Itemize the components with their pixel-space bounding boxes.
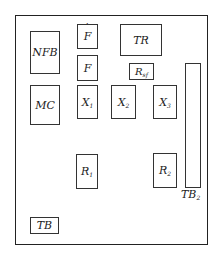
x1-label: X1 — [82, 96, 94, 109]
f-dot-box: F — [77, 24, 98, 49]
nfb-label: NFB — [32, 46, 57, 59]
r2-box: R2 — [153, 153, 177, 188]
x2-box: X2 — [111, 85, 136, 119]
tb-label: TB — [37, 219, 52, 232]
nfb-box: NFB — [30, 31, 60, 74]
x2-label: X2 — [118, 96, 130, 109]
r1-label: R1 — [81, 165, 93, 178]
x1-box: X1 — [77, 85, 98, 119]
tb2-label: TB2 — [181, 188, 200, 201]
rsf-label: Rsf — [135, 66, 148, 78]
mc-label: MC — [35, 99, 55, 112]
r1-box: R1 — [76, 154, 98, 189]
mc-box: MC — [30, 85, 60, 125]
x3-label: X3 — [159, 96, 171, 109]
f-box: F — [77, 55, 98, 81]
rsf-box: Rsf — [129, 63, 154, 80]
tb2-box — [185, 63, 201, 188]
f-label: F — [84, 62, 92, 75]
r2-label: R2 — [159, 164, 171, 177]
tb-box: TB — [30, 217, 59, 234]
f-dot-label: F — [84, 30, 92, 43]
tr-box: TR — [120, 24, 162, 56]
tr-label: TR — [133, 34, 149, 47]
x3-box: X3 — [153, 85, 177, 119]
